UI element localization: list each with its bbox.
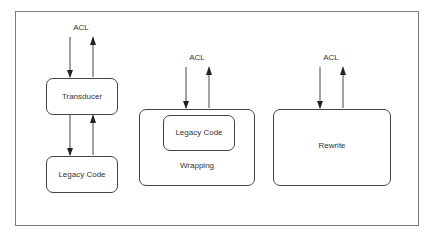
transducer-box: Transducer [46, 78, 118, 115]
legacy-code-label-1: Legacy Code [47, 170, 117, 179]
legacy-code-box-2: Legacy Code [163, 115, 235, 151]
acl-out-arrow-1 [90, 36, 96, 77]
legacy-code-box-1: Legacy Code [46, 156, 118, 193]
legacy-code-label-2: Legacy Code [164, 128, 234, 137]
acl-out-arrow-3 [340, 66, 346, 108]
rewrite-label: Rewrite [274, 141, 390, 150]
acl-label-3: ACL [316, 53, 346, 62]
acl-label-1: ACL [66, 23, 96, 32]
rewrite-box: Rewrite [273, 109, 391, 186]
acl-in-arrow-1 [67, 37, 73, 78]
transducer-label: Transducer [47, 92, 117, 101]
wrapping-label: Wrapping [140, 161, 254, 170]
acl-in-arrow-2 [183, 67, 189, 109]
acl-out-arrow-2 [206, 66, 212, 108]
acl-in-arrow-3 [317, 67, 323, 109]
legacy-to-transducer-arrow [90, 114, 96, 155]
wrapping-box: Legacy Code Wrapping [139, 109, 255, 186]
transducer-to-legacy-arrow [67, 114, 73, 156]
acl-label-2: ACL [182, 53, 212, 62]
